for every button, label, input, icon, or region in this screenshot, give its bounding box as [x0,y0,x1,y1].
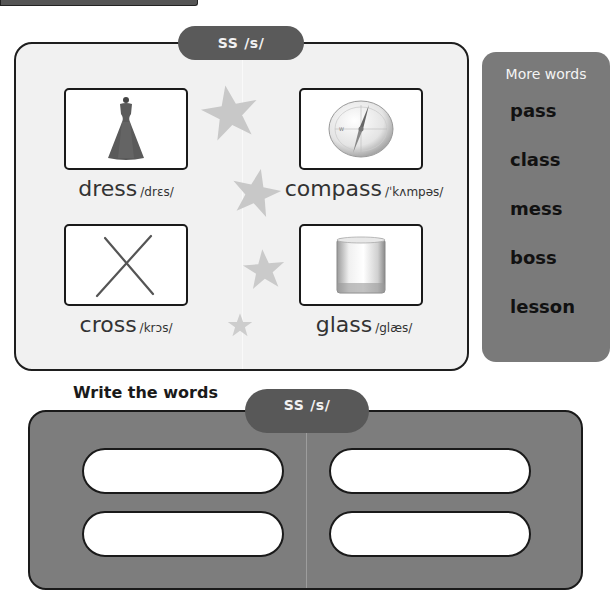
tab-phoneme: /s/ [244,35,264,51]
more-word-item: boss [510,247,557,268]
answer-input-3[interactable] [82,511,284,557]
star-icon [200,82,260,142]
answer-input-2[interactable] [329,448,531,494]
word-label-compass: compass/ˈkʌmpəs/ [274,176,454,201]
dress-icon [102,96,150,162]
word-label-cross: cross/krɔs/ [64,312,188,337]
divider-line [306,412,307,588]
cross-icon [91,232,161,298]
header-bar-partial [0,0,198,6]
tab-letters: SS [218,35,239,51]
more-word-item: mess [510,198,562,219]
sound-tab-top: SS /s/ [178,26,304,60]
star-icon [227,312,253,338]
sound-tab-bottom: SS /s/ [245,389,369,433]
glass-icon [333,233,389,297]
write-panel [28,410,583,590]
word-card-cross [64,224,188,306]
answer-input-1[interactable] [82,448,284,494]
more-word-item: class [510,149,560,170]
answer-input-4[interactable] [329,511,531,557]
more-words-title: More words [482,66,610,82]
word-panel: dress/drɛs/ W compass/ˈkʌmpəs/ [14,42,469,371]
tab-letters: SS [284,397,305,413]
svg-text:W: W [339,126,344,132]
more-words-panel: More words pass class mess boss lesson [482,52,610,362]
tab-phoneme: /s/ [310,397,330,413]
star-icon [242,247,286,291]
more-word-item: lesson [510,296,575,317]
word-card-compass: W [299,88,423,170]
word-label-glass: glass/glæs/ [284,312,444,337]
compass-icon: W [327,99,395,159]
write-section-title: Write the words [73,383,218,402]
word-card-glass [299,224,423,306]
more-word-item: pass [510,100,556,121]
word-label-dress: dress/drɛs/ [64,176,188,201]
word-card-dress [64,88,188,170]
